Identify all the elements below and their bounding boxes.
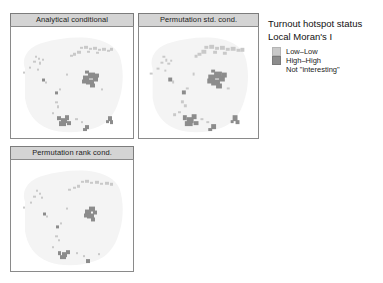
legend-swatch-low-low xyxy=(272,47,281,56)
panel-analytical-conditional: Analytical conditional xyxy=(10,13,134,139)
legend-label-low-low: Low–Low xyxy=(286,47,318,56)
legend-subtitle: Local Moran's I xyxy=(268,30,362,43)
legend-item-high-high: High–High xyxy=(272,56,362,65)
legend-label-high-high: High–High xyxy=(286,56,321,65)
legend-title: Turnout hotspot status xyxy=(268,17,362,30)
choropleth-map xyxy=(11,160,133,271)
legend-label-not-interesting: Not "interesting" xyxy=(286,65,340,74)
panel-map-area xyxy=(10,26,134,139)
panel-permutation-rank-cond: Permutation rank cond. xyxy=(10,146,134,272)
legend-item-low-low: Low–Low xyxy=(272,47,362,56)
panel-title-bar: Analytical conditional xyxy=(10,13,134,27)
panel-title-bar: Permutation std. cond. xyxy=(138,13,259,27)
panel-map-area xyxy=(138,26,259,139)
panel-title: Analytical conditional xyxy=(36,16,108,24)
choropleth-map xyxy=(139,27,258,138)
panel-map-area xyxy=(10,159,134,272)
panel-title-bar: Permutation rank cond. xyxy=(10,146,134,160)
legend-swatch-not-interesting xyxy=(272,65,281,74)
lisa-cluster-map-figure: Analytical conditional xyxy=(0,0,383,283)
legend-items: Low–Low High–High Not "interesting" xyxy=(272,47,362,74)
panel-permutation-std-cond: Permutation std. cond. xyxy=(138,13,259,139)
legend-swatch-high-high xyxy=(272,56,281,65)
panel-title: Permutation std. cond. xyxy=(160,16,237,24)
choropleth-map xyxy=(11,27,133,138)
panel-title: Permutation rank cond. xyxy=(32,149,112,157)
legend-item-not-interesting: Not "interesting" xyxy=(272,65,362,74)
map-legend: Turnout hotspot status Local Moran's I L… xyxy=(268,17,362,74)
